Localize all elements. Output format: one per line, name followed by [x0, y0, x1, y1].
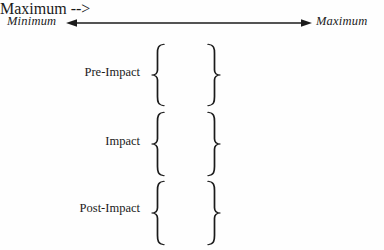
row-label-impact: Impact [60, 135, 140, 148]
axis-max-label: Maximum [316, 15, 367, 28]
axis-min-label: Minimum [7, 15, 56, 28]
right-brace-icon [204, 111, 224, 177]
right-brace-icon [204, 43, 224, 107]
left-brace-icon [148, 180, 168, 246]
left-brace-icon [148, 111, 168, 177]
row-label-pre-impact: Pre-Impact [60, 66, 140, 79]
double-arrow-horizontal-icon [64, 12, 314, 34]
row-label-post-impact: Post-Impact [60, 202, 140, 215]
right-brace-icon [204, 180, 224, 246]
brace-pair-post-impact [148, 180, 224, 246]
impact-continuum-diagram: Maximum --> Minimum Maximum Pre-Impact I… [0, 0, 384, 250]
left-brace-icon [148, 43, 168, 107]
brace-pair-impact [148, 111, 224, 177]
brace-pair-pre-impact [148, 43, 224, 107]
